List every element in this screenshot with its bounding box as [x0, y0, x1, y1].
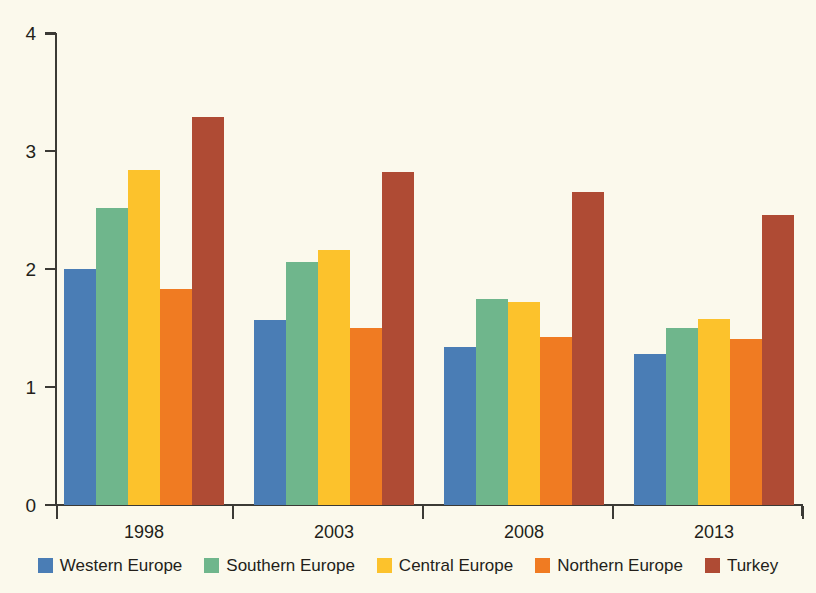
- legend-item: Southern Europe: [204, 557, 355, 574]
- legend-label: Central Europe: [399, 557, 513, 574]
- bar: [96, 208, 128, 505]
- bar: [634, 354, 666, 505]
- legend-swatch-icon: [377, 558, 392, 573]
- bar: [698, 319, 730, 505]
- legend-label: Western Europe: [60, 557, 183, 574]
- x-axis-tick-label: 2013: [654, 523, 774, 541]
- bar: [318, 250, 350, 505]
- legend-item: Central Europe: [377, 557, 513, 574]
- legend-item: Northern Europe: [535, 557, 683, 574]
- x-axis-tick-label: 2008: [464, 523, 584, 541]
- bar: [128, 170, 160, 505]
- bar: [254, 320, 286, 505]
- chart-legend: Western EuropeSouthern EuropeCentral Eur…: [0, 557, 816, 574]
- bar: [64, 269, 96, 505]
- legend-item: Western Europe: [38, 557, 183, 574]
- x-axis-tick-mark: [802, 506, 804, 519]
- x-axis-tick-mark: [612, 506, 614, 519]
- legend-item: Turkey: [705, 557, 778, 574]
- x-axis-tick-label: 2003: [274, 523, 394, 541]
- legend-label: Turkey: [727, 557, 778, 574]
- x-axis-tick-mark: [56, 506, 58, 519]
- legend-swatch-icon: [38, 558, 53, 573]
- bar-chart: 01234 1998200320082013 Western EuropeSou…: [0, 0, 816, 593]
- legend-label: Southern Europe: [226, 557, 355, 574]
- x-axis-tick-label: 1998: [84, 523, 204, 541]
- bar: [508, 302, 540, 505]
- legend-swatch-icon: [705, 558, 720, 573]
- legend-label: Northern Europe: [557, 557, 683, 574]
- bar: [540, 337, 572, 505]
- bar: [730, 339, 762, 505]
- bar: [286, 262, 318, 505]
- x-axis-tick-mark: [422, 506, 424, 519]
- bar: [192, 117, 224, 505]
- bar: [762, 215, 794, 505]
- legend-swatch-icon: [204, 558, 219, 573]
- bar: [666, 328, 698, 505]
- bar: [160, 289, 192, 505]
- bar: [476, 299, 508, 506]
- legend-swatch-icon: [535, 558, 550, 573]
- bar: [382, 172, 414, 505]
- x-axis-tick-mark: [232, 506, 234, 519]
- bar: [444, 347, 476, 505]
- bars-layer: [0, 0, 816, 505]
- bar: [572, 192, 604, 505]
- bar: [350, 328, 382, 505]
